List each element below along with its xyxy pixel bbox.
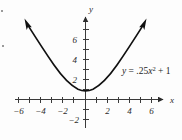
graph-figure: −6 −4 −2 2 4 6 6 4 2 −2 x y y = .25x2 + … xyxy=(0,0,182,140)
equation-constant: + 1 xyxy=(156,66,171,76)
y-tick-label-2: 2 xyxy=(73,75,78,85)
x-tick-label--4: −4 xyxy=(35,106,46,116)
y-tick-label-4: 4 xyxy=(73,55,78,65)
x-tick-label--6: −6 xyxy=(13,106,24,116)
x-axis-label: x xyxy=(169,95,174,105)
y-tick-label--2: −2 xyxy=(68,115,79,125)
y-axis-label: y xyxy=(88,4,93,14)
scan-speck xyxy=(2,45,4,47)
equation-label: y = .25x2 + 1 xyxy=(121,65,171,76)
equation-coefficient: .25 xyxy=(136,66,148,76)
x-tick-label-4: 4 xyxy=(127,106,132,116)
scan-speck xyxy=(1,10,3,12)
y-tick-label-6: 6 xyxy=(73,35,78,45)
x-tick-label-2: 2 xyxy=(105,106,110,116)
parabola-plot: −6 −4 −2 2 4 6 6 4 2 −2 x y y = .25x2 + … xyxy=(0,0,182,140)
x-tick-label-6: 6 xyxy=(149,106,154,116)
equation-equals: = xyxy=(126,66,136,76)
x-tick-label--2: −2 xyxy=(57,106,68,116)
